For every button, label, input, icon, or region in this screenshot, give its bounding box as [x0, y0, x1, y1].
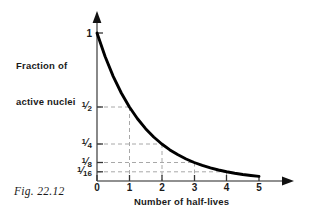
fraction-one-sixteenth: 1⁄16	[77, 166, 92, 179]
fraction-one-half: 1⁄2	[81, 101, 92, 114]
y-tick-label-quarter: 1⁄4	[66, 138, 92, 151]
y-tick-label-1: 1	[72, 28, 92, 39]
x-tick-label-0: 0	[90, 182, 104, 193]
x-tick-label-4: 4	[220, 182, 234, 193]
x-tick-label-5: 5	[252, 182, 266, 193]
y-axis-title-line1: Fraction of	[16, 60, 76, 72]
x-axis-arrowhead	[282, 177, 294, 186]
figure-caption: Fig. 22.12	[14, 185, 65, 197]
decay-curve-path	[97, 33, 259, 176]
x-tick-marks-group	[97, 175, 259, 181]
fraction-denominator: 4	[88, 142, 92, 151]
fraction-one-quarter: 1⁄4	[81, 138, 92, 151]
fraction-denominator: 2	[88, 105, 92, 114]
x-tick-label-1: 1	[123, 182, 137, 193]
y-tick-marks-group	[97, 33, 103, 172]
fraction-denominator: 16	[83, 169, 92, 178]
y-axis-title: Fraction of active nuclei	[16, 36, 76, 132]
x-tick-label-3: 3	[188, 182, 202, 193]
figure-container: Fraction of active nuclei Number of half…	[0, 0, 317, 215]
y-tick-label-sixteenth: 1⁄16	[60, 165, 92, 178]
y-axis-arrowhead	[93, 11, 102, 23]
x-tick-label-2: 2	[155, 182, 169, 193]
y-tick-label-half: 1⁄2	[66, 101, 92, 114]
x-axis-title: Number of half-lives	[134, 196, 229, 208]
